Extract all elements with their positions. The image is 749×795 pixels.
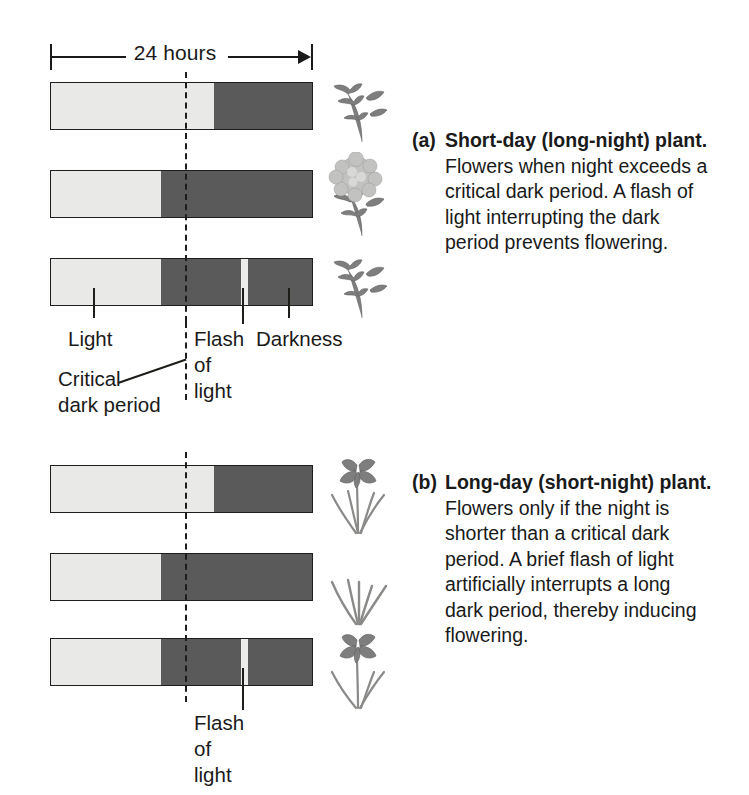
axis-label-critical-line2: dark period	[58, 392, 161, 417]
caption-text-b: Flowers only if the night is shorter tha…	[445, 497, 697, 647]
table-row	[50, 465, 313, 513]
caption-section-b: (b) Long-day (short-night) plant. Flower…	[412, 470, 712, 649]
critical-dark-period-line-extension	[185, 322, 187, 400]
caption-section-a: (a) Short-day (long-night) plant. Flower…	[412, 128, 712, 256]
bottom-label-flash-line1: Flash	[194, 710, 244, 735]
critical-dark-period-line	[185, 72, 187, 322]
scale-label: 24 hours	[120, 41, 230, 65]
time-scale-bar: 24 hours	[50, 44, 313, 70]
caption-title-a: Short-day (long-night) plant.	[445, 129, 707, 151]
bottom-label-flash-line3: light	[194, 762, 232, 787]
axis-label-light: Light	[68, 326, 112, 351]
caption-body-b: Long-day (short-night) plant. Flowers on…	[445, 470, 712, 649]
table-row	[50, 82, 313, 130]
axis-label-darkness: Darkness	[256, 326, 343, 351]
dark-segment	[214, 83, 312, 129]
critical-dark-period-line	[185, 452, 187, 702]
dark-segment	[161, 171, 312, 217]
flash-label-tick	[242, 668, 244, 710]
plant-icon-chrysanthemum-leaves	[322, 72, 400, 146]
scale-rule-right	[228, 56, 300, 58]
plant-icon-iris-leaves	[320, 552, 398, 626]
flash-label-tick	[242, 288, 244, 324]
axis-label-flash-line3: light	[194, 378, 232, 403]
scale-arrow-icon	[298, 50, 311, 64]
table-row	[50, 170, 313, 218]
caption-marker-a: (a)	[412, 128, 436, 154]
critical-dark-period-leader	[118, 359, 187, 384]
axis-label-flash-line2: of	[194, 352, 211, 377]
dark-segment	[161, 639, 312, 685]
scale-endcap-right	[311, 44, 313, 70]
dark-segment	[214, 466, 312, 512]
plant-icon-chrysanthemum-flower	[320, 152, 398, 238]
figure-canvas: 24 hours Light Flash of light Darkness C…	[0, 0, 749, 795]
scale-rule-left	[52, 56, 126, 58]
caption-title-b: Long-day (short-night) plant.	[445, 471, 711, 493]
dark-segment	[161, 554, 312, 600]
caption-body-a: Short-day (long-night) plant. Flowers wh…	[445, 128, 712, 256]
darkness-label-tick	[288, 288, 290, 318]
axis-label-critical-line1: Critical	[58, 366, 121, 391]
plant-icon-chrysanthemum-leaves	[322, 248, 400, 322]
table-row	[50, 638, 313, 686]
light-label-tick	[93, 288, 95, 318]
caption-text-a: Flowers when night exceeds a critical da…	[445, 155, 707, 254]
caption-marker-b: (b)	[412, 470, 437, 496]
bottom-label-flash-line2: of	[194, 736, 211, 761]
plant-icon-iris-flower	[320, 628, 398, 710]
table-row	[50, 553, 313, 601]
plant-icon-iris-flower	[320, 455, 398, 537]
axis-label-flash-line1: Flash	[194, 326, 244, 351]
table-row	[50, 258, 313, 306]
